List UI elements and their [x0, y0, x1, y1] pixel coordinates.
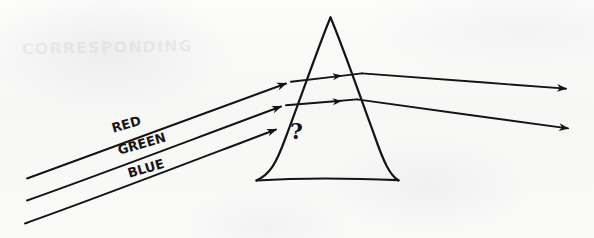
ray-outgoing-lower: [357, 99, 568, 128]
prism-right-face: [331, 18, 399, 181]
prism-left-face: [257, 18, 331, 181]
prism-base: [257, 179, 399, 181]
prism-outline: [257, 18, 399, 181]
incoming-rays-group: [25, 84, 286, 224]
outgoing-rays-group: [357, 73, 568, 128]
internal-rays-group: [286, 73, 362, 105]
ray-outgoing-upper: [362, 73, 566, 88]
ray-internal-green: [286, 99, 357, 105]
ray-internal-red: [291, 73, 362, 81]
question-mark-annotation: ?: [290, 118, 303, 144]
prism-sketch-figure: CORRESPONDING: [0, 0, 594, 238]
ray-incoming-green: [27, 107, 281, 201]
